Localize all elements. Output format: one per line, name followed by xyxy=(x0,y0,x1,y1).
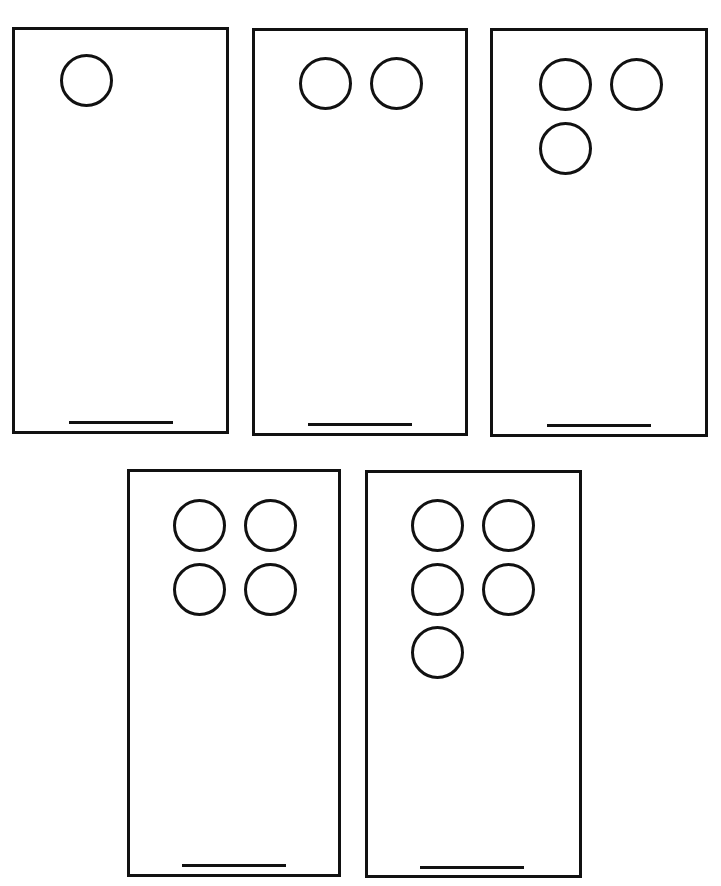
circle-icon xyxy=(173,563,226,616)
card-base-line xyxy=(308,423,412,426)
card-4 xyxy=(127,469,341,877)
circle-icon xyxy=(299,57,352,110)
circle-icon xyxy=(411,563,464,616)
card-base-line xyxy=(69,421,173,424)
circle-icon xyxy=(539,58,592,111)
circle-icon xyxy=(482,563,535,616)
card-2 xyxy=(252,28,468,436)
circle-icon xyxy=(173,499,226,552)
circle-icon xyxy=(482,499,535,552)
circle-icon xyxy=(60,54,113,107)
circle-icon xyxy=(370,57,423,110)
circle-icon xyxy=(411,499,464,552)
card-base-line xyxy=(182,864,286,867)
circle-icon xyxy=(244,499,297,552)
card-base-line xyxy=(420,866,524,869)
card-1 xyxy=(12,27,229,434)
circle-icon xyxy=(411,626,464,679)
card-5 xyxy=(365,470,582,878)
circle-icon xyxy=(244,563,297,616)
card-base-line xyxy=(547,424,651,427)
circle-icon xyxy=(610,58,663,111)
card-3 xyxy=(490,28,708,437)
circle-icon xyxy=(539,122,592,175)
